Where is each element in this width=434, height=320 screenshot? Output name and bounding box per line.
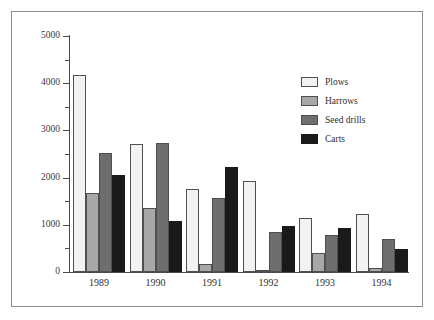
y-tick-major (63, 178, 69, 179)
bar-carts-1991 (225, 167, 238, 272)
y-tick-major (63, 130, 69, 131)
y-tick-major (63, 36, 69, 37)
legend-label: Seed drills (325, 115, 365, 125)
bar-carts-1989 (112, 175, 125, 272)
legend-swatch-harrows (301, 96, 318, 106)
y-tick-minor (65, 154, 69, 155)
chart-page: · · · · · · 010002000300040005000 198919… (0, 0, 434, 320)
y-axis-tick-label: 0 (16, 267, 60, 277)
bar-harrows-1994 (369, 268, 382, 272)
bar-harrows-1990 (143, 208, 156, 272)
legend-swatch-carts (301, 134, 318, 144)
y-tick-major (63, 225, 69, 226)
bar-carts-1993 (338, 228, 351, 272)
y-tick-major (63, 83, 69, 84)
y-tick-minor (65, 201, 69, 202)
bar-harrows-1991 (199, 264, 212, 272)
bar-harrows-1992 (256, 270, 269, 272)
plot-area: 010002000300040005000 198919901991199219… (0, 0, 434, 320)
legend-swatch-seed-drills (301, 115, 318, 125)
legend-item: Seed drills (301, 112, 411, 127)
bar-plows-1993 (299, 218, 312, 272)
legend-item: Carts (301, 131, 411, 146)
y-axis-tick-label: 3000 (16, 125, 60, 135)
x-axis-line (69, 272, 409, 273)
bar-plows-1994 (356, 214, 369, 272)
x-axis-tick-label: 1993 (295, 277, 355, 288)
y-axis-line (69, 35, 70, 273)
y-tick-minor (65, 248, 69, 249)
bar-harrows-1989 (86, 193, 99, 272)
y-tick-minor (65, 60, 69, 61)
legend-swatch-plows (301, 77, 318, 87)
y-tick-minor (65, 107, 69, 108)
bar-plows-1989 (73, 75, 86, 272)
legend-label: Harrows (325, 96, 358, 106)
bar-carts-1990 (169, 221, 182, 272)
x-axis-tick-label: 1994 (352, 277, 412, 288)
chart-legend: PlowsHarrowsSeed drillsCarts (301, 74, 411, 150)
bar-plows-1992 (243, 181, 256, 272)
bar-carts-1994 (395, 249, 408, 272)
x-axis-tick-label: 1992 (239, 277, 299, 288)
y-axis-tick-label: 5000 (16, 31, 60, 41)
bar-plows-1990 (130, 144, 143, 272)
bar-seed-drills-1991 (212, 198, 225, 272)
y-tick-major (63, 272, 69, 273)
y-axis-tick-label: 1000 (16, 220, 60, 230)
bar-carts-1992 (282, 226, 295, 272)
bar-seed-drills-1990 (156, 143, 169, 272)
y-axis-tick-label: 4000 (16, 78, 60, 88)
legend-item: Plows (301, 74, 411, 89)
y-axis-tick-label: 2000 (16, 173, 60, 183)
bar-plows-1991 (186, 189, 199, 272)
x-axis-tick-label: 1991 (182, 277, 242, 288)
bar-harrows-1993 (312, 253, 325, 272)
bar-seed-drills-1993 (325, 235, 338, 272)
x-axis-tick-label: 1990 (126, 277, 186, 288)
bar-seed-drills-1994 (382, 239, 395, 272)
bar-seed-drills-1989 (99, 153, 112, 272)
x-axis-tick-label: 1989 (69, 277, 129, 288)
legend-label: Plows (325, 77, 348, 87)
bar-seed-drills-1992 (269, 232, 282, 272)
legend-label: Carts (325, 134, 345, 144)
legend-item: Harrows (301, 93, 411, 108)
